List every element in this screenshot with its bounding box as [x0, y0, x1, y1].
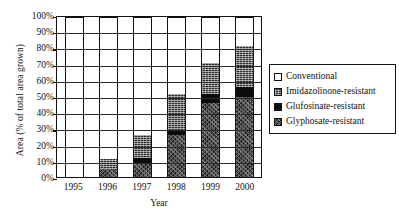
x-tick-label: 1995	[56, 182, 90, 192]
y-tickmark	[53, 130, 57, 131]
legend-label: Imidazolinone-resistant	[286, 86, 376, 97]
legend-item[interactable]: Glyphosate-resistant	[274, 114, 391, 129]
y-tickmark	[53, 66, 57, 67]
gridline	[57, 33, 261, 34]
imidazolinone-swatch	[274, 88, 282, 96]
chart-legend: ConventionalImidazolinone-resistantGlufo…	[269, 64, 396, 134]
bar-segment	[236, 87, 253, 97]
bar-slot	[57, 17, 91, 177]
bar-segment	[202, 63, 219, 93]
gridline	[57, 66, 261, 67]
stacked-bar[interactable]	[201, 17, 220, 177]
legend-item[interactable]: Conventional	[274, 69, 391, 84]
bar-segment	[236, 17, 253, 46]
y-tickmark	[53, 163, 57, 164]
x-axis-tick-labels: 199519961997199819992000	[56, 182, 262, 192]
y-tick-label: 30%	[14, 124, 54, 134]
y-tick-label: 60%	[14, 76, 54, 86]
y-tick-label: 10%	[14, 157, 54, 167]
stacked-bar[interactable]	[167, 17, 186, 177]
gridline	[57, 82, 261, 83]
plot-area	[56, 16, 262, 178]
stacked-bar-chart: Area (% of total area grown) 0%10%20%30%…	[0, 0, 399, 221]
glufosinate-swatch	[274, 103, 282, 111]
y-tick-label: 90%	[14, 27, 54, 37]
y-tickmark	[53, 179, 57, 180]
y-tick-label: 100%	[14, 11, 54, 21]
bar-segment	[100, 17, 117, 159]
y-tick-label: 40%	[14, 108, 54, 118]
y-tick-label: 20%	[14, 141, 54, 151]
y-tickmark	[53, 17, 57, 18]
bar-segment	[236, 97, 253, 177]
x-tick-label: 1998	[159, 182, 193, 192]
x-tick-label: 1999	[193, 182, 227, 192]
gridline	[57, 147, 261, 148]
y-tick-label: 0%	[14, 173, 54, 183]
y-tickmark	[53, 82, 57, 83]
bar-slot	[227, 17, 261, 177]
y-tickmark	[53, 49, 57, 50]
stacked-bar[interactable]	[65, 17, 84, 177]
gridline	[57, 114, 261, 115]
x-tick-label: 1997	[125, 182, 159, 192]
bar-segment	[134, 17, 151, 135]
bar-segment	[168, 135, 185, 177]
y-tickmark	[53, 33, 57, 34]
bar-group	[57, 17, 261, 177]
bar-segment	[134, 163, 151, 177]
bar-segment	[100, 159, 117, 169]
legend-item[interactable]: Imidazolinone-resistant	[274, 84, 391, 99]
bar-segment	[100, 169, 117, 177]
bar-slot	[125, 17, 159, 177]
legend-item[interactable]: Glufosinate-resistant	[274, 99, 391, 114]
y-tick-label: 80%	[14, 43, 54, 53]
gridline	[57, 130, 261, 131]
gridline	[57, 49, 261, 50]
legend-label: Glufosinate-resistant	[286, 101, 365, 112]
stacked-bar[interactable]	[99, 17, 118, 177]
bar-segment	[66, 17, 83, 177]
x-axis-title: Year	[56, 198, 262, 208]
y-tickmark	[53, 114, 57, 115]
x-tick-label: 2000	[228, 182, 262, 192]
legend-label: Conventional	[286, 71, 337, 82]
bar-segment	[202, 17, 219, 63]
y-tickmark	[53, 147, 57, 148]
y-tickmark	[53, 98, 57, 99]
y-tick-label: 70%	[14, 60, 54, 70]
x-tick-label: 1996	[90, 182, 124, 192]
glyphosate-swatch	[274, 118, 282, 126]
bar-slot	[159, 17, 193, 177]
y-axis-tick-labels: 0%10%20%30%40%50%60%70%80%90%100%	[14, 11, 54, 184]
gridline	[57, 163, 261, 164]
gridline	[57, 98, 261, 99]
bar-segment	[168, 94, 185, 131]
y-tick-label: 50%	[14, 92, 54, 102]
bar-slot	[193, 17, 227, 177]
stacked-bar[interactable]	[235, 17, 254, 177]
bar-slot	[91, 17, 125, 177]
legend-label: Glyphosate-resistant	[286, 116, 364, 127]
stacked-bar[interactable]	[133, 17, 152, 177]
conventional-swatch	[274, 73, 282, 81]
